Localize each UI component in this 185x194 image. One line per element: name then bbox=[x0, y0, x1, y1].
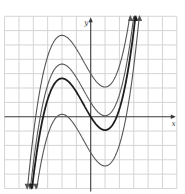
cubic-family-graph: x y bbox=[0, 0, 185, 194]
y-axis-arrow-icon bbox=[89, 17, 93, 22]
x-axis-label: x bbox=[172, 120, 176, 128]
y-axis-label: y bbox=[83, 19, 89, 27]
x-axis-arrow-icon bbox=[171, 115, 176, 119]
